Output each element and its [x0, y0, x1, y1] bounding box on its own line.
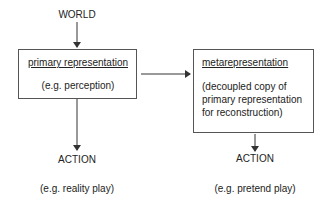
right-action-example: (e.g. pretend play): [214, 183, 295, 195]
right-action-label: ACTION: [236, 153, 274, 165]
left-action-example: (e.g. reality play): [40, 183, 114, 195]
meta-box-line-2: primary representation: [202, 94, 302, 106]
meta-box-line-3: for reconstruction): [202, 107, 283, 119]
primary-box-title: primary representation: [28, 57, 128, 69]
primary-box-subtitle: (e.g. perception): [42, 80, 115, 92]
primary-representation-box: primary representation (e.g. perception): [18, 49, 137, 99]
meta-box-title: metarepresentation: [202, 57, 288, 69]
left-action-label: ACTION: [58, 154, 96, 166]
world-label: WORLD: [58, 9, 95, 21]
meta-box-line-1: (decoupled copy of: [202, 81, 287, 93]
metarepresentation-box: metarepresentation (decoupled copy of pr…: [193, 49, 314, 133]
